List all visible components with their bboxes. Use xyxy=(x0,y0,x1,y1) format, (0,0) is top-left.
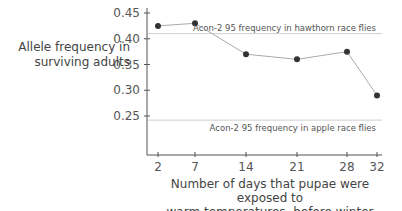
data-line xyxy=(158,23,377,95)
data-point xyxy=(243,51,249,57)
x-tick-label: 14 xyxy=(238,160,253,174)
y-axis-label-line-1: Allele frequency in xyxy=(0,40,130,55)
x-tick-label: 7 xyxy=(191,160,199,174)
x-tick-label: 28 xyxy=(339,160,354,174)
y-tick-label: 0.25 xyxy=(113,109,140,123)
x-tick-label: 32 xyxy=(369,160,384,174)
x-axis-label: Number of days that pupae were exposed t… xyxy=(150,177,390,211)
x-tick-label: 2 xyxy=(154,160,162,174)
data-point xyxy=(344,49,350,55)
y-axis-label: Allele frequency in surviving adults xyxy=(0,40,130,70)
data-point xyxy=(192,20,198,26)
data-point xyxy=(155,23,161,29)
y-axis-label-line-2: surviving adults xyxy=(0,55,130,70)
reference-line-label: Acon-2 95 frequency in hawthorn race fli… xyxy=(193,23,377,33)
data-point xyxy=(294,56,300,62)
reference-line-label: Acon-2 95 frequency in apple race flies xyxy=(210,123,377,133)
y-tick-label: 0.45 xyxy=(113,6,140,20)
x-axis-label-line-2: warm temperatures, before winter xyxy=(150,205,390,211)
x-tick-label: 21 xyxy=(289,160,304,174)
data-point xyxy=(374,92,380,98)
x-axis-label-line-1: Number of days that pupae were exposed t… xyxy=(150,177,390,205)
y-tick-label: 0.30 xyxy=(113,83,140,97)
